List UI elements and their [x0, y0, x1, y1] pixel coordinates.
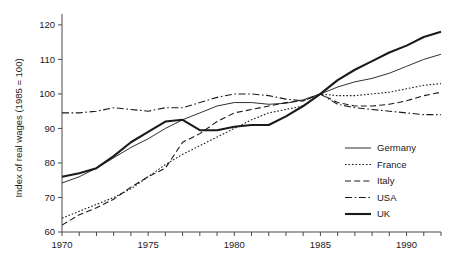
y-tick-label: 70 [44, 192, 55, 203]
x-tick-label: 1975 [138, 239, 159, 250]
y-tick-label: 80 [44, 157, 55, 168]
y-tick-label: 90 [44, 123, 55, 134]
y-tick-label: 120 [39, 19, 55, 30]
legend-label-usa: USA [377, 192, 397, 203]
y-tick-label: 110 [40, 54, 55, 65]
legend-label-france: France [377, 159, 407, 170]
legend-label-uk: UK [377, 208, 391, 219]
chart-container: Index of real wages (1985 = 100) 6070809… [0, 0, 476, 264]
y-axis-title: Index of real wages (1985 = 100) [13, 58, 24, 197]
legend-label-germany: Germany [377, 142, 416, 153]
y-tick-label: 100 [39, 88, 55, 99]
x-tick-label: 1980 [224, 239, 245, 250]
x-tick-label: 1985 [310, 239, 331, 250]
x-tick-label: 1970 [51, 239, 72, 250]
y-tick-label: 60 [44, 226, 55, 237]
line-chart: Index of real wages (1985 = 100) 6070809… [0, 0, 476, 264]
x-tick-label: 1990 [396, 239, 417, 250]
legend-layer: GermanyFranceItalyUSAUK [345, 142, 416, 219]
y-axis-title-group: Index of real wages (1985 = 100) [13, 58, 24, 197]
legend-label-italy: Italy [377, 175, 395, 186]
